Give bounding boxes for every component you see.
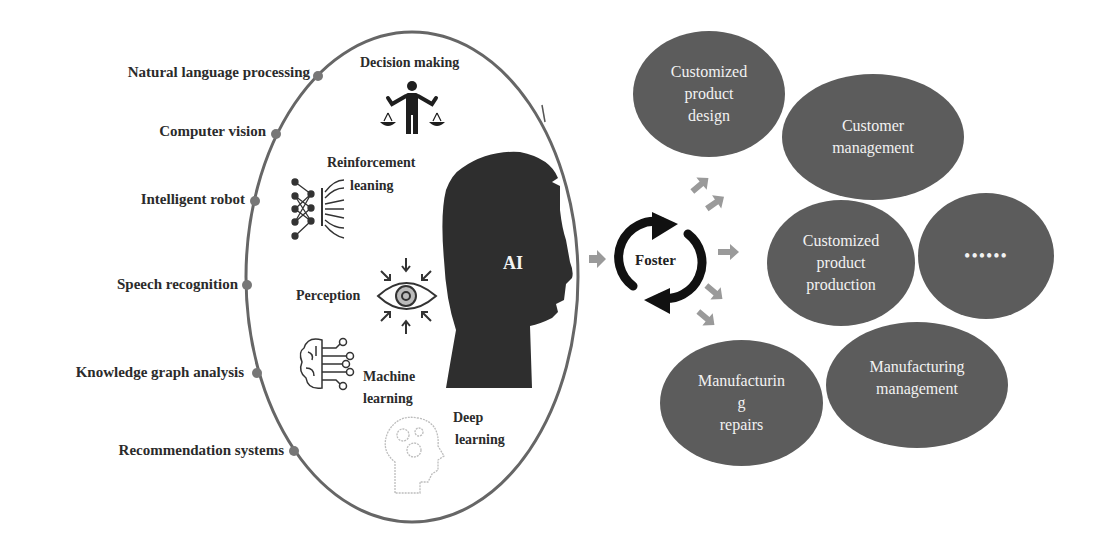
oval-line: product (803, 252, 879, 274)
oval-line: design (671, 105, 747, 127)
oval-customized-product-production: Customized product production (767, 200, 915, 326)
label-machine-learning: learning (363, 390, 413, 408)
label-knowledge-graph-analysis: Knowledge graph analysis (76, 365, 244, 380)
balance-scale-person-icon (380, 81, 445, 134)
label-reinforcement-leaning: leaning (350, 177, 394, 195)
label-machine: Machine (363, 368, 415, 386)
output-arrows (687, 172, 739, 331)
head-gears-icon (385, 417, 444, 493)
oval-line: product (671, 83, 747, 105)
oval-customer-management: Customer management (782, 74, 964, 200)
label-intelligent-robot: Intelligent robot (141, 192, 245, 207)
oval-line: management (832, 137, 914, 159)
foster-label: Foster (635, 252, 676, 269)
oval-customized-product-design: Customized product design (633, 31, 785, 157)
label-speech-recognition: Speech recognition (117, 277, 238, 292)
label-recommendation-systems: Recommendation systems (119, 443, 284, 458)
oval-line: repairs (698, 414, 785, 436)
label-deep: Deep (453, 409, 483, 427)
arrow-into-foster-icon (589, 250, 606, 268)
label-natural-language-processing: Natural language processing (128, 65, 310, 80)
label-perception: Perception (296, 287, 360, 305)
neural-network-icon (292, 179, 344, 239)
oval-line: Customized (671, 61, 747, 83)
oval-line: Manufacturing (869, 356, 964, 378)
brain-circuit-icon (300, 339, 353, 390)
oval-line: Customer (832, 115, 914, 137)
label-decision-making: Decision making (360, 54, 459, 72)
oval-manufacturing-management: Manufacturing management (826, 322, 1008, 448)
tick-mark (542, 105, 545, 122)
eye-icon (378, 258, 436, 334)
oval-line: g (698, 392, 785, 414)
oval-more-items: •••••• (918, 193, 1054, 319)
oval-line: production (803, 274, 879, 296)
label-computer-vision: Computer vision (159, 124, 266, 139)
ellipsis-dots: •••••• (964, 245, 1008, 267)
oval-line: Manufacturin (698, 370, 785, 392)
oval-line: management (869, 378, 964, 400)
ai-diagram: Natural language processing Computer vis… (0, 0, 1100, 554)
label-reinforcement: Reinforcement (327, 154, 415, 172)
label-deep-learning: learning (455, 431, 505, 449)
ai-label: AI (503, 253, 523, 274)
oval-line: Customized (803, 230, 879, 252)
oval-manufacturing-repairs: Manufacturin g repairs (660, 340, 823, 466)
